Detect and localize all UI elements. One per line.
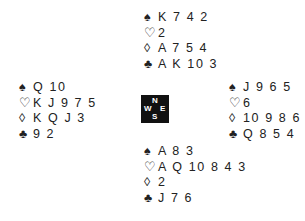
west-clubs: ♣9 2: [19, 127, 97, 143]
club-icon: ♣: [19, 127, 33, 143]
diamond-icon: ◊: [144, 41, 158, 57]
diamond-icon: ◊: [19, 111, 33, 127]
north-spades: ♠K 7 4 2: [144, 10, 218, 26]
compass-box: N W E S: [141, 95, 169, 123]
south-diamonds: ◊2: [144, 175, 247, 191]
west-hearts: ♡K J 9 7 5: [19, 96, 97, 112]
diamond-icon: ◊: [229, 111, 243, 127]
north-diamonds: ◊A 7 5 4: [144, 41, 218, 57]
west-spades: ♠Q 10: [19, 80, 97, 96]
south-clubs: ♣J 7 6: [144, 191, 247, 207]
north-hearts: ♡2: [144, 26, 218, 42]
south-hearts: ♡A Q 10 8 4 3: [144, 160, 247, 176]
club-icon: ♣: [144, 57, 158, 73]
spade-icon: ♠: [144, 10, 158, 26]
compass-north-label: N: [152, 97, 158, 105]
west-hand: ♠Q 10 ♡K J 9 7 5 ◊K Q J 3 ♣9 2: [19, 80, 97, 142]
east-spades: ♠J 9 6 5: [229, 80, 301, 96]
east-hearts: ♡6: [229, 96, 301, 112]
east-diamonds: ◊10 9 8 6: [229, 111, 301, 127]
compass-east-label: E: [160, 105, 165, 113]
east-clubs: ♣Q 8 5 4: [229, 127, 301, 143]
spade-icon: ♠: [19, 80, 33, 96]
heart-icon: ♡: [19, 96, 33, 112]
compass-south-label: S: [152, 113, 157, 121]
east-hand: ♠J 9 6 5 ♡6 ◊10 9 8 6 ♣Q 8 5 4: [229, 80, 301, 142]
diamond-icon: ◊: [144, 175, 158, 191]
compass-west-label: W: [144, 105, 152, 113]
spade-icon: ♠: [229, 80, 243, 96]
north-clubs: ♣A K 10 3: [144, 57, 218, 73]
west-diamonds: ◊K Q J 3: [19, 111, 97, 127]
south-spades: ♠A 8 3: [144, 144, 247, 160]
club-icon: ♣: [144, 191, 158, 207]
heart-icon: ♡: [144, 160, 158, 176]
north-hand: ♠K 7 4 2 ♡2 ◊A 7 5 4 ♣A K 10 3: [144, 10, 218, 72]
heart-icon: ♡: [229, 96, 243, 112]
spade-icon: ♠: [144, 144, 158, 160]
club-icon: ♣: [229, 127, 243, 143]
south-hand: ♠A 8 3 ♡A Q 10 8 4 3 ◊2 ♣J 7 6: [144, 144, 247, 206]
heart-icon: ♡: [144, 26, 158, 42]
